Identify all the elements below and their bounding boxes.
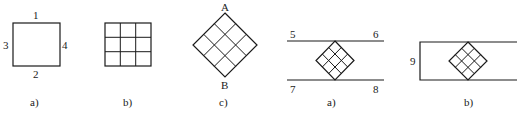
vertex-label-bottom: B bbox=[221, 79, 228, 91]
panel-diamond-between-lines: 5 6 7 8 a) bbox=[287, 28, 384, 109]
edge-label-bottom: 2 bbox=[33, 68, 39, 80]
edge-label-left: 3 bbox=[3, 39, 9, 51]
edge-label-left: 9 bbox=[410, 55, 416, 67]
diamond-outline bbox=[316, 41, 354, 80]
panel-diamond-in-channel: 9 b) bbox=[410, 42, 517, 109]
line-label-top-right: 6 bbox=[373, 28, 379, 40]
panel-square-numbered: 1 2 3 4 a) bbox=[3, 9, 68, 109]
panel-caption: c) bbox=[219, 96, 228, 109]
vertex-label-top: A bbox=[221, 1, 229, 13]
panel-caption: a) bbox=[30, 96, 39, 109]
panel-caption: a) bbox=[327, 96, 336, 109]
panel-diamond-grid: A B c) bbox=[193, 1, 257, 109]
panel-grid: b) bbox=[105, 23, 151, 109]
diamond-outline bbox=[193, 13, 257, 77]
panel-caption: b) bbox=[123, 96, 133, 109]
edge-label-top: 1 bbox=[33, 9, 39, 21]
line-label-top-left: 5 bbox=[290, 28, 296, 40]
line-label-bottom-right: 8 bbox=[373, 83, 379, 95]
channel-outline bbox=[420, 42, 517, 80]
diamond-outline bbox=[449, 42, 487, 80]
panel-caption: b) bbox=[464, 96, 474, 109]
square-outline bbox=[13, 23, 60, 66]
edge-label-right: 4 bbox=[62, 39, 68, 51]
grid-outline bbox=[105, 23, 151, 66]
line-label-bottom-left: 7 bbox=[290, 83, 296, 95]
figure-canvas: 1 2 3 4 a) b) A B c) 5 6 7 8 bbox=[0, 0, 521, 118]
